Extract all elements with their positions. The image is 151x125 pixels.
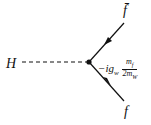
higgs-label: H (6, 56, 16, 72)
vertex-dot (86, 59, 91, 64)
mass-ratio-fraction: mf 2mW (122, 58, 137, 80)
fraction-denominator: 2mW (122, 70, 137, 81)
coupling-prefix: −ig (98, 62, 114, 74)
vertex-coupling-label: −igw mf 2mW (98, 58, 137, 80)
antifermion-label: f̄ (123, 3, 127, 19)
fermion-label: f (124, 104, 128, 120)
coupling-subscript: w (114, 69, 119, 77)
